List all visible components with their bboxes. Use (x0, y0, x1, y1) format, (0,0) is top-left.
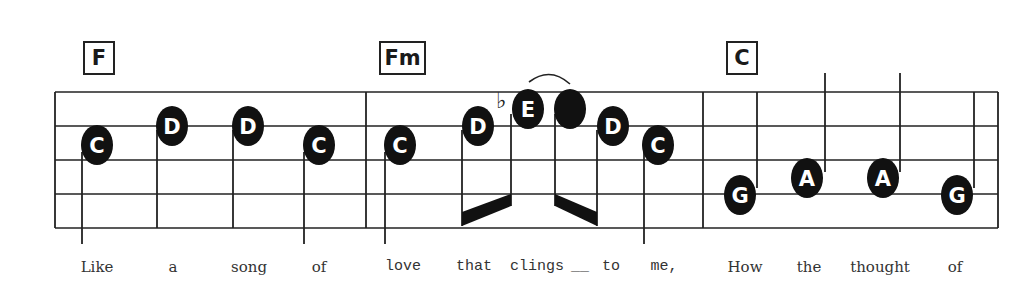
lyric-word: clings (510, 258, 564, 275)
beam (462, 194, 511, 226)
svg-text:C: C (89, 134, 104, 158)
svg-text:D: D (163, 115, 180, 139)
beam (555, 194, 597, 226)
lyric-word: to (602, 258, 620, 275)
svg-text:D: D (604, 115, 621, 139)
svg-text:C: C (311, 134, 326, 158)
lyric-extender: __ (571, 258, 589, 275)
svg-text:C: C (650, 134, 665, 158)
svg-text:A: A (799, 167, 816, 191)
lyric-word: thought (850, 258, 910, 276)
lyric-word: me, (650, 258, 677, 275)
lyric-word: How (728, 258, 763, 276)
svg-text:G: G (731, 184, 748, 208)
svg-text:G: G (948, 184, 965, 208)
note-heads: C D D C C D E D C G A A G (81, 89, 973, 215)
lyric-word: of (948, 258, 963, 276)
lyric-word: Like (81, 258, 114, 276)
chord-symbol-c: C (726, 41, 758, 75)
svg-text:C: C (392, 134, 407, 158)
lyric-word: that (456, 258, 492, 275)
svg-text:D: D (469, 115, 486, 139)
lyric-word: the (797, 258, 822, 276)
svg-text:E: E (521, 98, 535, 122)
svg-text:A: A (875, 167, 892, 191)
chord-symbol-f: F (83, 41, 115, 75)
lyric-word: a (169, 258, 178, 276)
lyric-word: love (385, 258, 421, 275)
lyric-word: of (312, 258, 327, 276)
slur (529, 74, 570, 84)
lyric-word: song (231, 258, 267, 276)
flat-accidental: ♭ (496, 88, 506, 113)
chord-symbol-fm: Fm (379, 41, 426, 75)
music-staff: ♭ C D D C C D E D C G A A G (0, 0, 1013, 299)
svg-text:D: D (239, 115, 256, 139)
